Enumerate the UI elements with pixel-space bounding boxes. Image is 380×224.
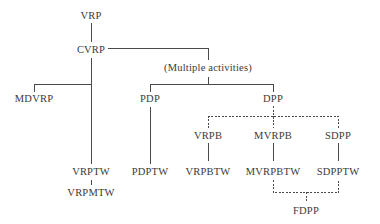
node-pdptw: PDPTW <box>132 167 169 178</box>
connector-lines <box>0 0 380 224</box>
node-multiple-activities: (Multiple activities) <box>164 63 252 74</box>
node-mvrpb: MVRPB <box>254 131 292 142</box>
edge-cvrp-mdvrp <box>35 85 92 93</box>
node-vrpmtw: VRPMTW <box>67 188 114 199</box>
node-vrptw: VRPTW <box>72 167 110 178</box>
node-mdvrp: MDVRP <box>15 94 53 105</box>
node-vrpb: VRPB <box>194 131 222 142</box>
node-sdpp: SDPP <box>325 131 351 142</box>
edge-multiple-pdp-dpp <box>151 85 274 93</box>
node-dpp: DPP <box>263 94 283 105</box>
node-vrpbtw: VRPBTW <box>186 167 231 178</box>
edge-fdpp-bracket <box>274 180 339 193</box>
edge-cvrp-multiple <box>108 49 209 61</box>
node-fdpp: FDPP <box>293 206 319 217</box>
vrp-taxonomy-diagram: VRP CVRP (Multiple activities) MDVRP PDP… <box>0 0 380 224</box>
node-mvrpbtw: MVRPBTW <box>246 167 301 178</box>
node-sdpptw: SDPPTW <box>317 167 360 178</box>
node-vrp: VRP <box>80 11 101 22</box>
node-pdp: PDP <box>140 94 160 105</box>
node-cvrp: CVRP <box>77 45 105 56</box>
